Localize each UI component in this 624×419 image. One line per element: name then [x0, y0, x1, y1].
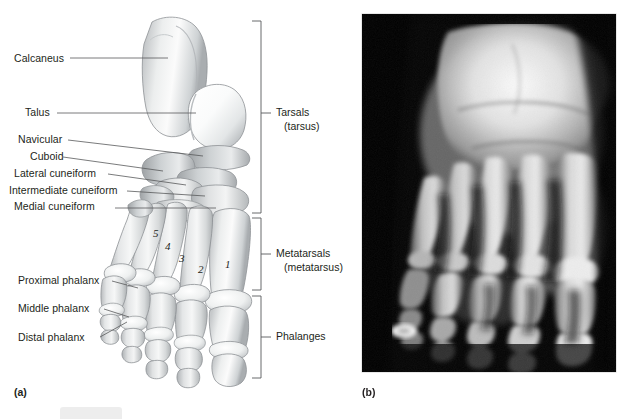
label-metatarsal-5: 5: [153, 227, 159, 239]
label-cuboid: Cuboid: [30, 150, 64, 162]
label-medial-cuneiform: Medial cuneiform: [14, 200, 95, 212]
navicular-bone: [188, 146, 250, 171]
bracket-label-metatarsals: Metatarsals(metatarsus): [276, 247, 343, 274]
bracket-label-phalanges-name: Phalanges: [276, 330, 326, 342]
label-metatarsal-4: 4: [165, 240, 171, 252]
toe5-distal-phalanx: [101, 330, 119, 344]
panel-a-tag: (a): [14, 386, 27, 398]
leader-navicular: [68, 140, 203, 156]
panel-b-tag: (b): [362, 386, 375, 398]
panel-b-radiograph: (b): [362, 14, 616, 372]
label-talus: Talus: [25, 106, 50, 118]
cropped-caption-marker: [60, 407, 122, 419]
label-lateral-cuneiform: Lateral cuneiform: [14, 167, 96, 179]
label-intermediate-cuneiform: Intermediate cuneiform: [9, 184, 117, 196]
toe3-middle-phalanx: [145, 340, 171, 362]
bracket-label-tarsals-sub: (tarsus): [276, 120, 320, 134]
toe2-distal-phalanx: [177, 368, 200, 387]
toe2-middle-phalanx: [175, 348, 202, 372]
group-brackets: [252, 21, 271, 378]
label-navicular: Navicular: [18, 133, 62, 145]
toe3-distal-phalanx: [146, 360, 168, 378]
bracket-phalanges: [252, 296, 261, 378]
bracket-label-tarsals: Tarsals(tarsus): [276, 106, 320, 133]
toe4-middle-phalanx: [121, 328, 145, 347]
bracket-label-phalanges: Phalanges: [276, 330, 326, 344]
panel-a-illustration: CalcaneusTalusNavicularCuboidLateral cun…: [0, 0, 362, 413]
tarsal-bones-group: [140, 17, 250, 221]
hallux-distal-phalanx: [212, 354, 247, 387]
label-metatarsal-2: 2: [198, 263, 204, 275]
label-metatarsal-3: 3: [179, 252, 185, 264]
metatarsal-5-tuberosity: [128, 200, 153, 217]
label-distal-phalanx: Distal phalanx: [18, 331, 85, 343]
toe5-middle-phalanx: [100, 314, 121, 331]
label-calcaneus: Calcaneus: [14, 52, 64, 64]
label-middle-phalanx: Middle phalanx: [18, 302, 89, 314]
bracket-label-tarsals-name: Tarsals: [276, 106, 309, 118]
bracket-label-metatarsals-name: Metatarsals: [276, 247, 330, 259]
metatarsal-1-bone: [210, 209, 251, 303]
talus-bone: [188, 84, 246, 149]
bracket-metatarsals: [252, 218, 261, 290]
bracket-label-metatarsals-sub: (metatarsus): [276, 261, 343, 275]
xray-image: [362, 14, 616, 372]
bracket-tarsals: [252, 21, 261, 213]
toe4-distal-phalanx: [122, 346, 142, 362]
label-proximal-phalanx: Proximal phalanx: [18, 274, 99, 286]
label-metatarsal-1: 1: [225, 258, 231, 270]
xray-film-grain: [362, 14, 616, 372]
